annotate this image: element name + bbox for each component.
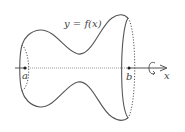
lower-curve bbox=[22, 82, 128, 120]
rotation-arrow-icon bbox=[149, 62, 155, 75]
x-axis bbox=[15, 65, 167, 71]
point-b-label: b bbox=[126, 71, 132, 82]
curve-label: y = f(x) bbox=[63, 18, 102, 29]
solid-of-revolution-diagram: y = f(x) a b x bbox=[0, 0, 185, 132]
x-axis-label: x bbox=[164, 70, 170, 81]
point-a-label: a bbox=[22, 70, 28, 81]
point-b-dot bbox=[127, 66, 130, 69]
